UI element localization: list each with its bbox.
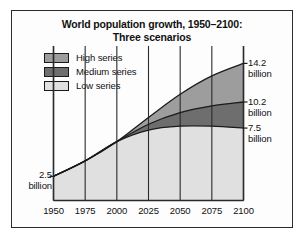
annotation-high-value: 14.2 billion: [248, 58, 272, 79]
legend-item-medium: Medium series: [44, 65, 164, 78]
legend-swatch-medium: [44, 67, 69, 77]
annotation-low-number: 7.5: [248, 123, 272, 134]
annotation-low-unit: billion: [248, 134, 272, 145]
legend-label-medium: Medium series: [76, 66, 136, 77]
title-line-2: Three scenarios: [11, 31, 293, 44]
chart-figure: World population growth, 1950–2100: Thre…: [0, 0, 307, 244]
annotation-low-value: 7.5 billion: [248, 123, 272, 144]
page-title: World population growth, 1950–2100: Thre…: [11, 18, 293, 44]
legend-label-high: High series: [76, 52, 122, 63]
annotation-medium-value: 10.2 billion: [248, 97, 272, 118]
annotation-medium-unit: billion: [248, 108, 272, 119]
legend-label-low: Low series: [76, 80, 120, 91]
annotation-medium-number: 10.2: [248, 97, 272, 108]
legend-swatch-high: [44, 53, 69, 63]
annotation-start-value: 2.5 billion: [14, 170, 52, 191]
legend-item-high: High series: [44, 51, 164, 64]
x-tick-2100: 2100: [224, 205, 264, 216]
annotation-high-unit: billion: [248, 69, 272, 80]
legend-swatch-low: [44, 81, 69, 91]
legend-item-low: Low series: [44, 79, 164, 92]
title-line-1: World population growth, 1950–2100:: [11, 18, 293, 31]
chart-legend: High series Medium series Low series: [44, 51, 164, 93]
annotation-start-unit: billion: [28, 180, 52, 191]
annotation-start-number: 2.5: [39, 169, 52, 180]
